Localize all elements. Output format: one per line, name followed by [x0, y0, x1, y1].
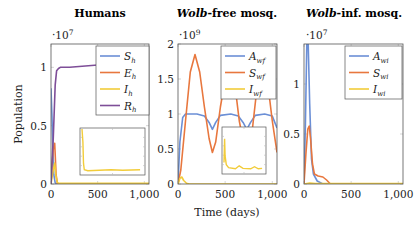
inset-plot	[222, 127, 266, 174]
legend: AwiSwiIwi	[345, 46, 402, 99]
scale-factor: ·109	[179, 28, 201, 41]
y-tick-label: 0	[40, 178, 47, 190]
x-tick-label: 1,000	[129, 188, 159, 200]
legend: ShEhIhRh	[96, 46, 149, 115]
y-tick-label: 0.5	[283, 128, 300, 140]
panel-wolb-free-mosquitoes: Wolb-free mosq. ·109 00.511.5205001,000A…	[157, 7, 287, 200]
legend: AwfSwfIwf	[221, 46, 276, 99]
x-tick-label: 1,000	[257, 188, 287, 200]
x-tick-label: 500	[88, 188, 108, 200]
y-axis-label: Population	[12, 84, 25, 143]
x-tick-label: 0	[48, 188, 55, 200]
x-tick-label: 1,000	[383, 188, 413, 200]
series-line-i-wf	[178, 177, 277, 184]
x-tick-label: 500	[215, 188, 235, 200]
panel-title: Humans	[74, 7, 125, 20]
y-tick-label: 1	[293, 78, 300, 90]
y-tick-label: 2	[167, 38, 174, 50]
panel-title: Wolb-free mosq.	[177, 7, 277, 20]
x-tick-label: 0	[175, 188, 182, 200]
y-tick-label: 1.5	[157, 73, 174, 85]
svg-text:·109: ·109	[179, 28, 201, 41]
svg-text:·107: ·107	[306, 28, 328, 41]
inset-plot	[80, 128, 145, 175]
x-tick-label: 0	[301, 188, 308, 200]
x-axis-label: Time (days)	[194, 206, 259, 219]
scale-factor: ·107	[306, 28, 328, 41]
y-tick-label: 0.5	[30, 120, 47, 132]
x-tick-label: 500	[341, 188, 361, 200]
panel-wolb-infected-mosquitoes: Wolb-inf. mosq. ·107 00.5105001,000AwiSw…	[283, 7, 413, 200]
y-tick-label: 1	[167, 108, 174, 120]
svg-text:·107: ·107	[52, 28, 74, 41]
y-tick-label: 0	[167, 178, 174, 190]
series-line-s-wi	[304, 126, 403, 184]
y-tick-label: 0	[293, 178, 300, 190]
panel-humans: Humans ·107 00.5105001,000ShEhIhRh	[30, 7, 159, 200]
scale-factor: ·107	[52, 28, 74, 41]
panel-title: Wolb-inf. mosq.	[306, 7, 402, 20]
y-tick-label: 1	[40, 61, 47, 73]
y-tick-label: 0.5	[157, 143, 174, 155]
figure: Population Time (days) Humans ·107 00.51…	[0, 0, 418, 230]
